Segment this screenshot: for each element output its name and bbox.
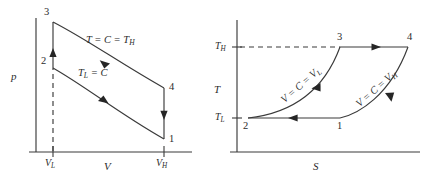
pv-state-point-2: 2 — [41, 56, 46, 67]
ts-diagram-group — [230, 20, 420, 152]
stirling-cycle-figure: p V VL VH 3 2 4 1 T = C = TH TL = C T S … — [0, 0, 421, 182]
ts-tick-label-th: TH — [215, 41, 226, 53]
pv-y-axis-label: p — [11, 71, 17, 82]
figure-canvas — [0, 0, 421, 182]
pv-process-label-isotherm-low: TL = C — [78, 68, 107, 79]
pv-state-point-3: 3 — [44, 7, 49, 18]
ts-arrow-3-4-icon — [372, 43, 382, 50]
ts-state-point-1: 1 — [337, 121, 342, 132]
pv-tick-label-vl: VL — [45, 158, 55, 170]
ts-arrow-4-1-icon — [385, 93, 394, 102]
ts-state-point-3: 3 — [337, 32, 342, 43]
ts-arrow-1-2-icon — [288, 114, 298, 121]
pv-arrow-4-1-icon — [160, 111, 167, 120]
pv-process-label-isotherm-high: T = C = TH — [86, 35, 135, 46]
ts-state-point-4: 4 — [407, 32, 412, 43]
ts-state-point-2: 2 — [243, 121, 248, 132]
ts-x-axis-label: S — [313, 161, 319, 172]
pv-arrow-2-3-icon — [49, 48, 56, 57]
ts-y-axis-label: T — [214, 84, 220, 95]
pv-state-point-1: 1 — [169, 134, 174, 145]
pv-x-axis-label: V — [104, 161, 111, 172]
pv-arrow-1-2-icon — [98, 95, 109, 103]
ts-tick-label-tl: TL — [215, 112, 225, 124]
pv-tick-label-vh: VH — [156, 158, 167, 170]
pv-state-point-4: 4 — [169, 82, 174, 93]
